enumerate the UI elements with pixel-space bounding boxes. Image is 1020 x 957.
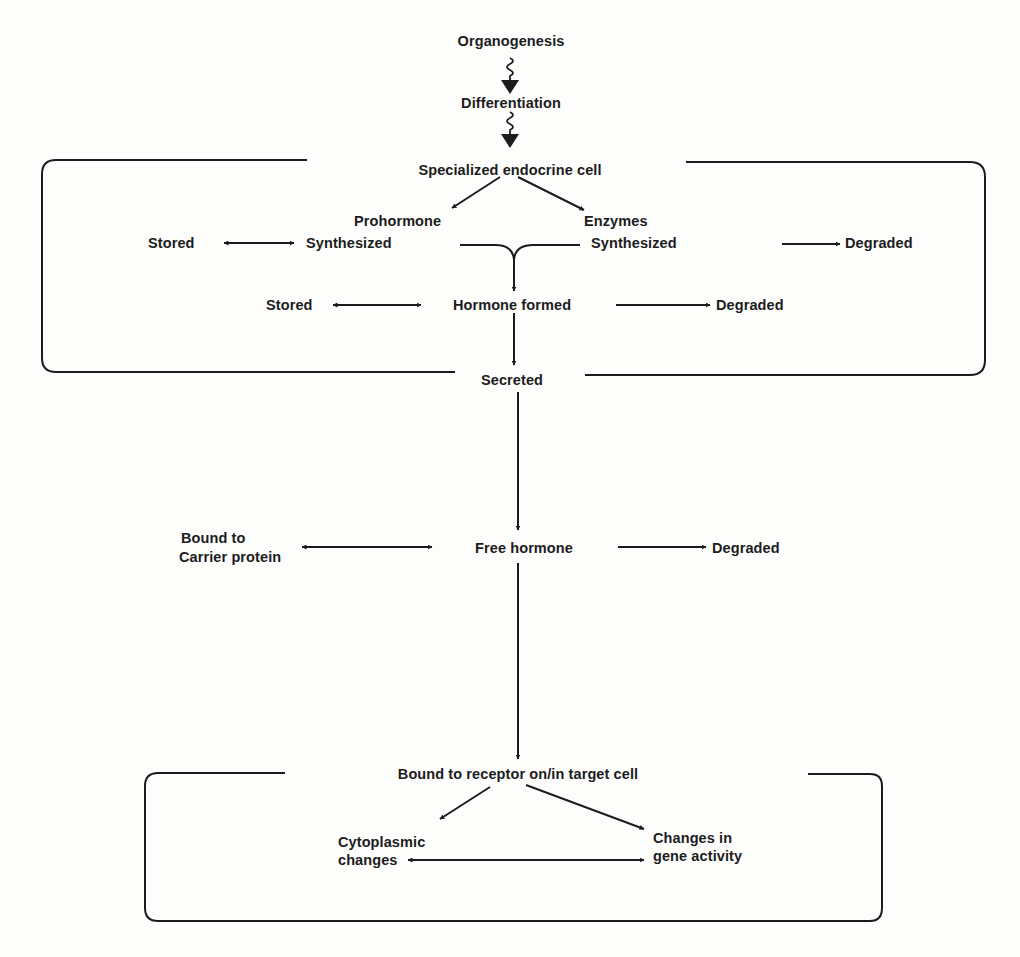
hormone-lifecycle-diagram: Organogenesis Differentiation Specialize… [0,0,1020,957]
arrow-to-enzymes [518,177,584,210]
label-hormone-degraded: Degraded [716,297,784,314]
arrow-to-prohormone [452,177,500,208]
wavy-arrow-organogenesis [507,58,513,80]
wavy-arrowhead-1 [501,80,519,94]
wavy-arrowhead-2 [501,134,519,148]
label-bound-to-carrier-line1: Bound to [181,529,245,547]
label-gene-activity-line1: Changes in [653,829,732,847]
label-enzymes-synthesized: Synthesized [591,235,677,252]
label-free-degraded: Degraded [712,540,780,557]
label-cytoplasmic-line2: changes [338,851,398,869]
label-bound-to-carrier-line2: Carrier protein [179,548,281,566]
label-bound-to-receptor: Bound to receptor on/in target cell [398,766,638,783]
label-organogenesis: Organogenesis [458,33,565,50]
label-prohormone-stored: Stored [148,235,195,252]
diagram-connectors [0,0,1020,957]
label-specialized-endocrine-cell: Specialized endocrine cell [418,162,601,179]
arrow-to-gene-activity [526,785,644,829]
label-enzymes: Enzymes [584,213,648,230]
label-enzymes-degraded: Degraded [845,235,913,252]
label-prohormone: Prohormone [354,213,441,230]
arrow-to-cytoplasmic [440,787,490,819]
label-gene-activity-line2: gene activity [653,847,742,865]
label-hormone-stored: Stored [266,297,313,314]
endocrine-cell-boundary-right [585,162,985,375]
label-differentiation: Differentiation [461,95,561,112]
label-cytoplasmic-line1: Cytoplasmic [338,833,425,851]
label-free-hormone: Free hormone [475,540,573,557]
label-prohormone-synthesized: Synthesized [306,235,392,252]
target-cell-boundary-left [145,773,882,921]
label-hormone-formed: Hormone formed [453,297,571,314]
merge-bracket [460,245,580,260]
wavy-arrow-differentiation [507,112,513,134]
endocrine-cell-boundary-left [42,160,455,372]
label-secreted: Secreted [481,372,543,389]
